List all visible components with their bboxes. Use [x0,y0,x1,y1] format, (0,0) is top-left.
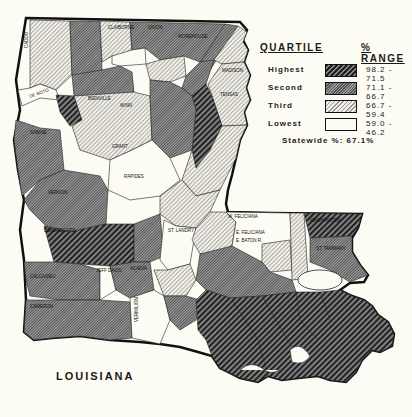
svg-text:VERNON: VERNON [48,190,67,195]
legend-label: Second [268,83,303,92]
svg-text:ST. TAMMANY: ST. TAMMANY [316,246,346,251]
svg-text:UNION: UNION [148,25,163,30]
legend-row-lowest: Lowest 59.0 - 46.2 [258,118,408,132]
map-title: LOUISIANA [56,370,135,382]
svg-text:MOREHOUSE: MOREHOUSE [178,34,208,39]
svg-text:WINN: WINN [120,103,132,108]
legend-row-second: Second 71.1 - 66.7 [258,82,408,96]
legend-label: Lowest [268,119,302,128]
svg-text:E. FELICIANA: E. FELICIANA [236,230,265,235]
svg-text:ACADIA: ACADIA [130,266,147,271]
legend-range: 98.2 - 71.5 [366,65,408,83]
svg-text:MADISON: MADISON [222,68,243,73]
legend-row-highest: Highest 98.2 - 71.5 [258,64,408,78]
svg-text:TENSAS: TENSAS [220,92,238,97]
legend-row-third: Third 66.7 - 59.4 [258,100,408,114]
svg-text:SABINE: SABINE [30,130,47,135]
legend-range: 66.7 - 59.4 [366,101,408,119]
legend-range: 59.0 - 46.2 [366,119,408,137]
statewide-percentage: Statewide %: 67.1% [282,136,374,145]
svg-text:W. FELICIANA: W. FELICIANA [228,214,258,219]
svg-text:CAMERON: CAMERON [30,304,53,309]
svg-text:GRANT: GRANT [112,144,128,149]
legend-swatch-third [325,100,357,113]
svg-text:ST. LANDRY: ST. LANDRY [168,228,194,233]
legend-range: 71.1 - 66.7 [366,83,408,101]
legend-swatch-lowest [325,118,357,131]
svg-text:VERMILION: VERMILION [134,297,139,322]
svg-text:BEAUREGARD: BEAUREGARD [44,228,76,233]
legend-label: Third [268,101,293,110]
svg-text:RAPIDES: RAPIDES [124,174,144,179]
svg-text:WASHINGTON: WASHINGTON [310,218,341,223]
legend-label: Highest [268,65,304,74]
legend-header-range: % RANGE [361,42,408,64]
svg-text:BIENVILLE: BIENVILLE [88,96,111,101]
svg-text:CLAIBORNE: CLAIBORNE [108,25,134,30]
louisiana-parish-map: CADDO CLAIBORNE UNION MOREHOUSE MADISON … [0,0,412,417]
svg-text:E. BATON R.: E. BATON R. [236,238,262,243]
svg-text:JEFF DAVIS: JEFF DAVIS [96,268,121,273]
parish-label-caddo: CADDO [24,31,29,48]
svg-text:CALCASIEU: CALCASIEU [30,274,56,279]
legend-swatch-highest [325,64,357,77]
legend-swatch-second [325,82,357,95]
legend-header-quartile: QUARTILE [260,42,323,53]
